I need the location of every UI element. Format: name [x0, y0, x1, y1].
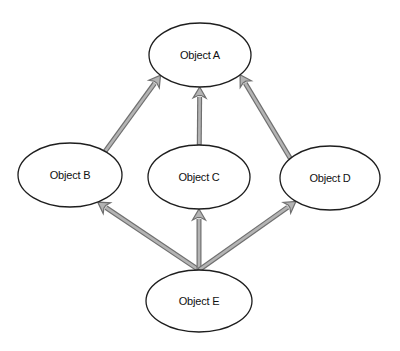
node-e-label: Object E	[179, 295, 220, 307]
arrowhead-icon	[193, 87, 206, 98]
node-object-e[interactable]: Object E	[146, 270, 252, 332]
edge-e-to-c	[193, 209, 206, 270]
edge-shaft	[200, 207, 289, 270]
nodes-layer: Object A Object B Object C Object D Obje…	[18, 23, 380, 332]
node-d-label: Object D	[309, 172, 350, 184]
node-a-label: Object A	[180, 49, 221, 61]
edge-shaft	[245, 83, 290, 158]
edge-d-to-a	[240, 75, 290, 159]
node-object-d[interactable]: Object D	[280, 146, 380, 210]
node-object-a[interactable]: Object A	[149, 23, 251, 87]
edge-c-to-a	[193, 87, 206, 145]
arrowhead-icon	[193, 209, 206, 220]
node-b-label: Object B	[50, 169, 91, 181]
node-c-label: Object C	[178, 171, 219, 183]
edge-shaft	[106, 83, 155, 151]
node-object-b[interactable]: Object B	[18, 143, 122, 207]
edge-e-to-b	[98, 202, 199, 270]
inheritance-diagram: Object A Object B Object C Object D Obje…	[0, 0, 400, 351]
edge-e-to-d	[199, 201, 296, 270]
edge-b-to-a	[105, 75, 160, 151]
edge-shaft	[106, 207, 199, 269]
node-object-c[interactable]: Object C	[148, 145, 250, 209]
